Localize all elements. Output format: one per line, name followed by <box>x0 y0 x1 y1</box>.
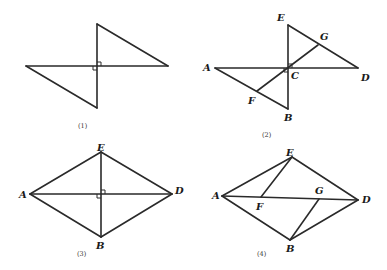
point-label-f: F <box>247 95 256 106</box>
figure-caption: (3) <box>77 250 87 258</box>
figure-caption: (1) <box>78 122 88 130</box>
figure-3: E A D B (3) <box>18 142 184 258</box>
point-label-g: G <box>315 185 324 196</box>
point-label-a: A <box>202 62 211 73</box>
point-label-d: D <box>361 194 371 205</box>
point-label-a: A <box>18 189 27 200</box>
point-label-d: D <box>174 185 184 196</box>
point-label-e: E <box>276 12 285 23</box>
point-label-b: B <box>95 240 104 251</box>
figure-1: (1) <box>26 24 168 130</box>
point-label-a: A <box>211 190 220 201</box>
geometry-diagram: (1) E G A C D F B (2) E A D B (3) <box>0 0 387 270</box>
point-label-g: G <box>320 31 329 42</box>
figure-4: E A F G D B (4) <box>211 147 371 258</box>
figure-caption: (2) <box>262 131 272 139</box>
figure-2: E G A C D F B (2) <box>202 12 370 139</box>
figure-caption: (4) <box>257 250 267 258</box>
point-label-b: B <box>285 243 294 254</box>
point-label-e: E <box>96 142 105 153</box>
point-label-d: D <box>360 72 370 83</box>
point-label-c: C <box>291 70 299 81</box>
point-label-f: F <box>255 201 264 212</box>
point-label-b: B <box>283 112 292 123</box>
point-label-e: E <box>285 147 294 158</box>
